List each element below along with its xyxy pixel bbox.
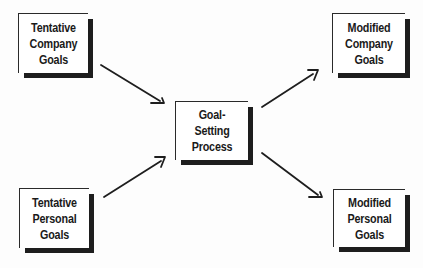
node-shadow (25, 248, 94, 253)
label-line: Modified (348, 195, 391, 211)
node-goal-setting-process: Goal- Setting Process (175, 101, 248, 160)
node-shadow (89, 194, 94, 253)
node-tentative-personal-goals: Tentative Personal Goals (19, 188, 89, 248)
node-tentative-company-goals: Tentative Company Goals (18, 13, 88, 73)
label-line: Process (192, 139, 233, 155)
node-shadow (339, 247, 410, 252)
label-line: Company (345, 36, 393, 52)
node-shadow (24, 73, 93, 78)
label-line: Personal (32, 211, 76, 227)
node-modified-personal-goals: Modified Personal Goals (333, 189, 405, 247)
label-line: Tentative (31, 20, 76, 36)
label-line: Goal- (199, 107, 226, 123)
arrow-process-to-modified-company (262, 70, 318, 107)
label-line: Goals (355, 227, 384, 243)
node-shadow (338, 73, 410, 78)
label-line: Modified (348, 20, 391, 36)
node-modified-company-goals: Modified Company Goals (332, 13, 405, 73)
node-shadow (248, 107, 253, 165)
label-line: Setting (194, 123, 229, 139)
arrow-tentative-personal-to-process (104, 157, 165, 197)
node-label: Tentative Personal Goals (25, 189, 84, 248)
label-line: Company (30, 36, 78, 52)
node-shadow (181, 160, 253, 165)
label-line: Tentative (32, 195, 77, 211)
node-shadow (405, 19, 410, 78)
node-label: Goal- Setting Process (181, 102, 243, 160)
label-line: Goals (40, 227, 69, 243)
node-label: Modified Company Goals (338, 14, 400, 73)
node-shadow (88, 19, 93, 78)
label-line: Personal (347, 211, 391, 227)
arrow-tentative-company-to-process (101, 65, 164, 103)
label-line: Goals (354, 52, 383, 68)
node-shadow (405, 195, 410, 252)
node-label: Tentative Company Goals (24, 14, 83, 73)
diagram-canvas: Tentative Company Goals Tentative Person… (0, 0, 423, 268)
arrow-process-to-modified-personal (262, 153, 322, 197)
node-label: Modified Personal Goals (339, 190, 400, 247)
label-line: Goals (39, 52, 68, 68)
